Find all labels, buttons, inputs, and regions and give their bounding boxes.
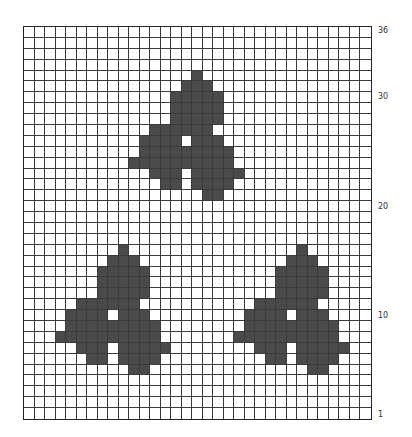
- empty-stitch: [276, 375, 287, 386]
- filled-stitch: [182, 103, 193, 114]
- empty-stitch: [45, 310, 56, 321]
- empty-stitch: [339, 354, 350, 365]
- empty-stitch: [119, 81, 130, 92]
- empty-stitch: [287, 147, 298, 158]
- empty-stitch: [98, 256, 109, 267]
- empty-stitch: [360, 375, 371, 386]
- empty-stitch: [108, 81, 119, 92]
- empty-stitch: [360, 38, 371, 49]
- empty-stitch: [35, 288, 46, 299]
- empty-stitch: [66, 365, 77, 376]
- empty-stitch: [129, 190, 140, 201]
- empty-stitch: [98, 408, 109, 419]
- empty-stitch: [329, 60, 340, 71]
- empty-stitch: [35, 365, 46, 376]
- empty-stitch: [35, 136, 46, 147]
- empty-stitch: [350, 397, 361, 408]
- empty-stitch: [266, 158, 277, 169]
- empty-stitch: [45, 114, 56, 125]
- empty-stitch: [161, 60, 172, 71]
- empty-stitch: [45, 60, 56, 71]
- filled-stitch: [276, 310, 287, 321]
- empty-stitch: [35, 27, 46, 38]
- empty-stitch: [98, 38, 109, 49]
- empty-stitch: [192, 201, 203, 212]
- empty-stitch: [329, 179, 340, 190]
- empty-stitch: [24, 103, 35, 114]
- filled-stitch: [318, 365, 329, 376]
- empty-stitch: [140, 397, 151, 408]
- filled-stitch: [171, 103, 182, 114]
- empty-stitch: [350, 136, 361, 147]
- empty-stitch: [339, 288, 350, 299]
- filled-stitch: [297, 332, 308, 343]
- empty-stitch: [35, 179, 46, 190]
- empty-stitch: [255, 212, 266, 223]
- empty-stitch: [119, 27, 130, 38]
- empty-stitch: [171, 49, 182, 60]
- empty-stitch: [203, 397, 214, 408]
- empty-stitch: [234, 288, 245, 299]
- empty-stitch: [119, 169, 130, 180]
- empty-stitch: [161, 114, 172, 125]
- filled-stitch: [161, 179, 172, 190]
- empty-stitch: [213, 408, 224, 419]
- empty-stitch: [24, 321, 35, 332]
- empty-stitch: [308, 27, 319, 38]
- filled-stitch: [108, 288, 119, 299]
- empty-stitch: [276, 169, 287, 180]
- empty-stitch: [161, 277, 172, 288]
- empty-stitch: [192, 310, 203, 321]
- empty-stitch: [192, 408, 203, 419]
- empty-stitch: [87, 277, 98, 288]
- empty-stitch: [287, 375, 298, 386]
- empty-stitch: [45, 125, 56, 136]
- empty-stitch: [119, 92, 130, 103]
- empty-stitch: [192, 397, 203, 408]
- empty-stitch: [45, 103, 56, 114]
- empty-stitch: [98, 49, 109, 60]
- filled-stitch: [287, 299, 298, 310]
- empty-stitch: [161, 81, 172, 92]
- empty-stitch: [119, 60, 130, 71]
- empty-stitch: [224, 190, 235, 201]
- empty-stitch: [255, 256, 266, 267]
- empty-stitch: [266, 375, 277, 386]
- empty-stitch: [171, 386, 182, 397]
- empty-stitch: [255, 27, 266, 38]
- empty-stitch: [108, 343, 119, 354]
- empty-stitch: [171, 190, 182, 201]
- empty-stitch: [245, 408, 256, 419]
- empty-stitch: [150, 375, 161, 386]
- empty-stitch: [308, 114, 319, 125]
- empty-stitch: [224, 223, 235, 234]
- empty-stitch: [350, 354, 361, 365]
- empty-stitch: [66, 354, 77, 365]
- empty-stitch: [203, 223, 214, 234]
- empty-stitch: [350, 408, 361, 419]
- empty-stitch: [245, 397, 256, 408]
- filled-stitch: [161, 136, 172, 147]
- empty-stitch: [287, 49, 298, 60]
- empty-stitch: [213, 125, 224, 136]
- empty-stitch: [87, 179, 98, 190]
- empty-stitch: [56, 179, 67, 190]
- empty-stitch: [308, 169, 319, 180]
- empty-stitch: [339, 81, 350, 92]
- filled-stitch: [276, 343, 287, 354]
- filled-stitch: [140, 321, 151, 332]
- empty-stitch: [77, 234, 88, 245]
- empty-stitch: [329, 81, 340, 92]
- empty-stitch: [129, 375, 140, 386]
- empty-stitch: [150, 234, 161, 245]
- empty-stitch: [255, 81, 266, 92]
- filled-stitch: [192, 81, 203, 92]
- empty-stitch: [203, 277, 214, 288]
- filled-stitch: [329, 354, 340, 365]
- empty-stitch: [45, 343, 56, 354]
- empty-stitch: [339, 386, 350, 397]
- empty-stitch: [24, 397, 35, 408]
- empty-stitch: [24, 288, 35, 299]
- empty-stitch: [56, 256, 67, 267]
- empty-stitch: [150, 92, 161, 103]
